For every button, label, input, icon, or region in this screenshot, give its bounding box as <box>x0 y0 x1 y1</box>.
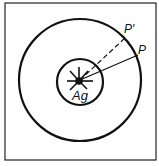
ray-to-p <box>80 55 138 80</box>
label-ag: Ag <box>71 88 89 103</box>
label-p: P <box>138 43 146 57</box>
diagram-canvas: Ag P P′ <box>0 0 159 166</box>
label-p-prime: P′ <box>124 22 135 36</box>
burst-icon <box>67 67 93 90</box>
